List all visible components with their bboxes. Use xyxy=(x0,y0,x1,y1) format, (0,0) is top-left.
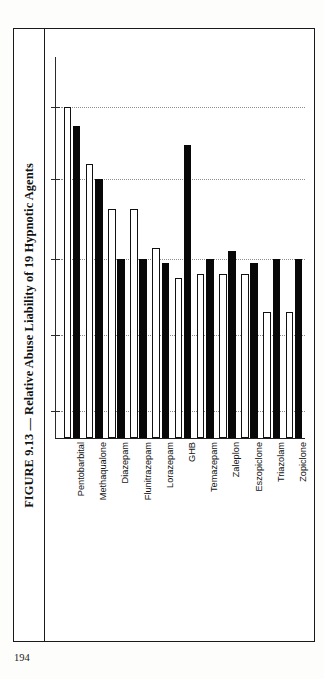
x-axis-label: Triazolam xyxy=(276,442,286,482)
y-axis-line xyxy=(55,57,56,438)
figure-frame: FIGURE 9.13 — Relative Abuse Liability o… xyxy=(13,28,315,642)
bar xyxy=(117,259,125,438)
bar xyxy=(273,259,281,438)
bar xyxy=(139,259,147,438)
page-number: 194 xyxy=(14,652,30,663)
bar xyxy=(73,126,81,438)
y-axis-tick xyxy=(51,179,60,180)
x-axis-label: Zopiclone xyxy=(298,442,308,482)
x-axis-label: Eszopiclone xyxy=(254,442,264,492)
bar xyxy=(130,209,138,438)
x-axis-labels: PentobarbitalMethaqualoneDiazepamFlunitr… xyxy=(61,442,305,562)
y-axis-tick xyxy=(51,107,60,108)
x-axis-label: Temazepam xyxy=(209,442,219,492)
x-axis-label: Diazepam xyxy=(120,442,130,483)
bar xyxy=(175,278,183,438)
x-axis-label: Zaleplon xyxy=(231,442,241,477)
bar xyxy=(219,274,227,438)
x-axis-label: Methaqualone xyxy=(98,442,108,500)
figure-title: FIGURE 9.13 — Relative Abuse Liability o… xyxy=(22,163,37,508)
x-axis-label: Lorazepam xyxy=(165,442,175,488)
bar xyxy=(228,251,236,438)
bar xyxy=(95,179,103,438)
bar xyxy=(86,164,94,438)
x-axis-label: Pentobarbital xyxy=(76,442,86,496)
bar xyxy=(64,107,72,438)
bar xyxy=(108,209,116,438)
y-axis-tick xyxy=(51,335,60,336)
y-axis-tick xyxy=(51,411,60,412)
bar xyxy=(241,274,249,438)
bar xyxy=(184,145,192,438)
bar-group xyxy=(61,57,305,438)
x-axis-label: GHB xyxy=(187,442,197,462)
bar xyxy=(263,312,271,438)
x-axis-label: Flunitrazepam xyxy=(143,442,153,500)
plot-region: PentobarbitalMethaqualoneDiazepamFlunitr… xyxy=(45,29,314,641)
bar xyxy=(206,259,214,438)
x-axis-line xyxy=(55,438,305,439)
bar xyxy=(162,263,170,438)
bar xyxy=(286,312,294,438)
bar xyxy=(295,259,303,438)
figure-caption-strip: FIGURE 9.13 — Relative Abuse Liability o… xyxy=(14,29,45,641)
y-axis-tick xyxy=(51,259,60,260)
bar xyxy=(250,263,258,438)
bar-chart: PentobarbitalMethaqualoneDiazepamFlunitr… xyxy=(61,57,305,438)
page-canvas: FIGURE 9.13 — Relative Abuse Liability o… xyxy=(0,0,324,679)
bar xyxy=(197,274,205,438)
bar xyxy=(152,248,160,439)
